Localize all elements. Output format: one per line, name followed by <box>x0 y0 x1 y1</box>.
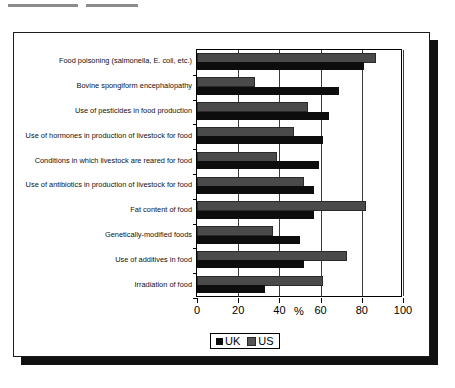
x-axis-title: % <box>196 305 402 317</box>
x-axis-tick <box>197 298 198 303</box>
y-axis-tick <box>193 298 197 299</box>
bar-us <box>197 226 273 236</box>
bar-us <box>197 77 255 87</box>
page-canvas: Food poisoning (salmonella, E. coli, etc… <box>0 0 455 388</box>
legend-label-uk: UK <box>225 335 240 347</box>
bar-us <box>197 251 347 261</box>
bar-group <box>197 174 401 199</box>
gridline <box>403 50 404 296</box>
bar-group <box>197 149 401 174</box>
bar-group <box>197 224 401 249</box>
bar-us <box>197 177 304 187</box>
x-axis-tick <box>321 298 322 303</box>
figure-shadow-bottom <box>21 357 438 365</box>
bar-group <box>197 124 401 149</box>
legend-swatch-us-icon <box>247 337 256 346</box>
category-label: Use of hormones in production of livesto… <box>26 132 192 139</box>
category-label: Use of additives in food <box>115 256 192 263</box>
bar-uk <box>197 186 314 194</box>
bar-us <box>197 276 323 286</box>
figure-shadow-right <box>430 40 438 365</box>
x-axis-tick <box>362 298 363 303</box>
bar-uk <box>197 112 329 120</box>
bar-uk <box>197 211 314 219</box>
x-axis-tick <box>403 298 404 303</box>
chart-legend: UK US <box>210 333 280 349</box>
bar-uk <box>197 236 300 244</box>
figure-frame: Food poisoning (salmonella, E. coli, etc… <box>13 32 430 357</box>
bar-us <box>197 201 366 211</box>
plot-area: 020406080100 <box>196 49 402 297</box>
category-label: Irradiation of food <box>134 281 192 288</box>
bar-us <box>197 127 294 137</box>
category-label: Conditions in which livestock are reared… <box>35 157 192 164</box>
bar-group <box>197 248 401 273</box>
x-axis-tick <box>238 298 239 303</box>
bar-us <box>197 152 277 162</box>
legend-swatch-uk-icon <box>216 338 223 345</box>
bar-group <box>197 199 401 224</box>
bar-group <box>197 50 401 75</box>
bar-us <box>197 53 376 63</box>
category-label: Genetically-modified foods <box>105 231 192 238</box>
category-labels: Food poisoning (salmonella, E. coli, etc… <box>14 49 192 297</box>
bar-uk <box>197 62 364 70</box>
page-top-artifact-1 <box>8 4 78 7</box>
bar-chart: Food poisoning (salmonella, E. coli, etc… <box>14 33 429 356</box>
bar-us <box>197 102 308 112</box>
bar-uk <box>197 87 339 95</box>
legend-item-us: US <box>247 335 273 347</box>
category-label: Use of antibiotics in production of live… <box>26 181 192 188</box>
legend-label-us: US <box>258 335 273 347</box>
bar-uk <box>197 161 319 169</box>
category-label: Food poisoning (salmonella, E. coli, etc… <box>59 57 192 64</box>
category-label: Use of pesticides in food production <box>75 107 192 114</box>
bar-uk <box>197 260 304 268</box>
bar-group <box>197 100 401 125</box>
bar-group <box>197 75 401 100</box>
page-top-artifact-2 <box>86 4 138 7</box>
x-axis-tick <box>279 298 280 303</box>
category-label: Fat content of food <box>130 206 192 213</box>
bar-group <box>197 273 401 298</box>
bar-uk <box>197 285 265 293</box>
bar-uk <box>197 136 323 144</box>
legend-item-uk: UK <box>216 335 240 347</box>
category-label: Bovine spongiform encephalopathy <box>77 82 192 89</box>
